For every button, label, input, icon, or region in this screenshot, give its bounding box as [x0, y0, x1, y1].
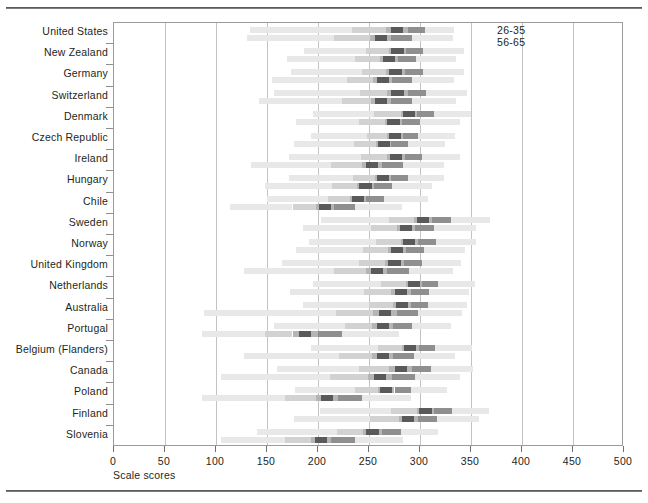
bar-segment — [412, 77, 454, 83]
bar-segment — [331, 162, 362, 168]
bar-segment — [409, 268, 453, 274]
x-axis-tick-label: 50 — [158, 455, 170, 467]
bar-segment — [202, 395, 286, 401]
bar-segment — [293, 204, 316, 210]
bar-segment — [342, 331, 398, 337]
bar-segment — [366, 196, 384, 202]
bar-segment — [392, 77, 411, 83]
median-marker — [319, 204, 331, 210]
bar-segment — [334, 204, 354, 210]
x-axis-title: Scale scores — [113, 469, 176, 481]
x-axis-tick — [266, 446, 267, 452]
percentile-bar — [114, 281, 624, 287]
median-marker — [400, 225, 412, 231]
bar-segment — [303, 225, 371, 231]
bar-segment — [412, 366, 431, 372]
category-label: Australia — [0, 302, 108, 313]
bar-segment — [405, 69, 423, 75]
bar-segment — [403, 162, 445, 168]
median-marker — [395, 289, 407, 295]
top-rule — [6, 7, 642, 9]
category-tick — [106, 425, 113, 426]
bar-segment — [359, 366, 390, 372]
percentile-bar — [114, 366, 624, 372]
bar-segment — [304, 48, 366, 54]
category-tick — [106, 255, 113, 256]
bar-segment — [287, 56, 354, 62]
median-marker — [390, 154, 402, 160]
percentile-bar — [114, 154, 624, 160]
x-axis-tick — [470, 446, 471, 452]
bar-segment — [406, 247, 424, 253]
bar-segment — [363, 247, 389, 253]
bar-segment — [267, 196, 328, 202]
category-label: Sweden — [0, 217, 108, 228]
bar-segment — [337, 429, 363, 435]
category-tick — [106, 276, 113, 277]
bar-segment — [277, 366, 359, 372]
x-axis-tick-label: 300 — [410, 455, 428, 467]
bar-segment — [381, 281, 405, 287]
percentile-bar — [114, 35, 624, 41]
bar-segment — [328, 196, 349, 202]
bar-segment — [259, 98, 343, 104]
bar-segment — [313, 281, 381, 287]
bar-segment — [370, 416, 399, 422]
category-tick — [106, 149, 113, 150]
median-marker — [387, 119, 399, 125]
bar-segment — [414, 353, 455, 359]
category-tick — [106, 86, 113, 87]
bar-segment — [371, 225, 397, 231]
bar-segment — [391, 98, 411, 104]
bar-segment — [265, 331, 293, 337]
gridline — [369, 23, 370, 445]
bar-segment — [342, 98, 371, 104]
median-marker — [403, 111, 415, 117]
bar-segment — [426, 90, 467, 96]
bar-segment — [418, 310, 462, 316]
percentile-bar — [114, 119, 624, 125]
bar-segment — [311, 133, 367, 139]
bar-segment — [423, 69, 464, 75]
x-axis-tick-label: 150 — [257, 455, 275, 467]
category-label: Finland — [0, 408, 108, 419]
category-label: Norway — [0, 238, 108, 249]
category-label: Ireland — [0, 153, 108, 164]
bar-segment — [296, 119, 359, 125]
median-marker — [375, 98, 387, 104]
bar-segment — [415, 374, 460, 380]
bar-segment — [202, 331, 265, 337]
percentile-bar — [114, 345, 624, 351]
x-axis-tick-label: 100 — [206, 455, 224, 467]
bar-segment — [318, 331, 342, 337]
x-axis-tick-label: 0 — [110, 455, 116, 467]
bar-segment — [401, 429, 439, 435]
category-label: United Kingdom — [0, 259, 108, 270]
percentile-bar — [114, 69, 624, 75]
bar-segment — [294, 416, 371, 422]
percentile-bar — [114, 247, 624, 253]
bar-segment — [355, 56, 381, 62]
bar-segment — [247, 35, 335, 41]
legend-item-26-35: 26-35 — [497, 24, 525, 36]
x-axis-tick-label: 500 — [614, 455, 632, 467]
bar-segment — [425, 27, 454, 33]
bar-segment — [257, 429, 338, 435]
bar-segment — [285, 437, 311, 443]
bar-segment — [355, 204, 402, 210]
median-marker — [366, 162, 378, 168]
category-tick — [106, 361, 113, 362]
percentile-bar — [114, 289, 624, 295]
x-axis-tick — [623, 446, 624, 452]
bar-segment — [435, 345, 472, 351]
bar-segment — [392, 183, 432, 189]
x-axis-tick — [368, 446, 369, 452]
bar-segment — [428, 302, 467, 308]
median-marker — [377, 353, 389, 359]
category-tick — [106, 234, 113, 235]
bar-segment — [291, 69, 361, 75]
median-marker — [417, 217, 429, 223]
bar-segment — [313, 111, 374, 117]
bar-segment — [303, 302, 369, 308]
bar-segment — [274, 90, 360, 96]
